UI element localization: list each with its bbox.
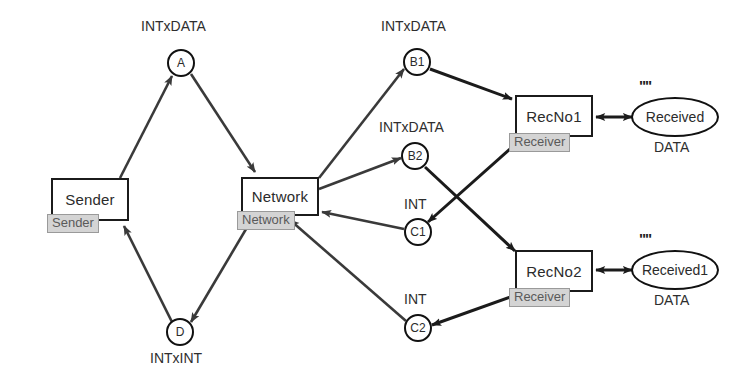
node-place-c2-label: C2 — [410, 321, 425, 335]
edge-C2-to-network — [290, 220, 406, 321]
node-place-d[interactable]: D — [166, 318, 194, 346]
edge-A-to-network — [191, 74, 255, 172]
tag-sender: Sender — [47, 214, 99, 233]
tag-recno1-label: Receiver — [514, 134, 565, 149]
edge-recno2-to-C2 — [432, 294, 519, 325]
node-recno1[interactable]: RecNo1 — [515, 95, 593, 137]
node-place-b2[interactable]: B2 — [401, 142, 429, 170]
node-received-label: Received — [646, 109, 704, 125]
edge-network-to-D — [191, 219, 252, 322]
annotation-b1-type: INTxDATA — [381, 18, 446, 34]
tag-recno1: Receiver — [509, 133, 570, 152]
annotation-a-type: INTxDATA — [141, 18, 206, 34]
node-network-label: Network — [252, 188, 308, 205]
annotation-c2-type: INT — [404, 291, 427, 307]
node-recno2-label: RecNo2 — [526, 263, 581, 280]
node-place-c1[interactable]: C1 — [404, 218, 432, 246]
node-place-a[interactable]: A — [167, 49, 195, 77]
node-received1[interactable]: Received1 — [631, 250, 719, 290]
node-place-c2[interactable]: C2 — [404, 314, 432, 342]
node-received1-label: Received1 — [642, 262, 708, 278]
quote-marker-received: "" — [639, 77, 651, 94]
annotation-received1-type: DATA — [654, 292, 689, 308]
node-place-b1[interactable]: B1 — [403, 48, 431, 76]
tag-recno2-label: Receiver — [514, 289, 565, 304]
node-place-b1-label: B1 — [410, 55, 425, 69]
node-recno1-label: RecNo1 — [526, 108, 581, 125]
node-received[interactable]: Received — [631, 97, 719, 137]
node-sender-label: Sender — [65, 191, 115, 208]
tag-network: Network — [237, 211, 295, 230]
tag-sender-label: Sender — [52, 215, 94, 230]
edge-C1-to-network — [322, 212, 404, 229]
quote-marker-received1: "" — [639, 230, 651, 247]
edge-D-to-sender — [124, 226, 172, 322]
node-recno2[interactable]: RecNo2 — [515, 250, 593, 292]
node-place-c1-label: C1 — [410, 225, 425, 239]
node-place-a-label: A — [177, 56, 185, 70]
node-place-d-label: D — [176, 325, 185, 339]
edge-sender-to-A — [120, 76, 172, 178]
annotation-b2-type: INTxDATA — [379, 119, 444, 135]
edge-B1-to-recno1 — [430, 69, 512, 99]
tag-network-label: Network — [242, 212, 290, 227]
node-place-b2-label: B2 — [408, 149, 423, 163]
tag-recno2: Receiver — [509, 288, 570, 307]
annotation-d-type: INTxINT — [150, 350, 202, 366]
petri-net-diagram: Sender Sender Network Network RecNo1 Rec… — [0, 0, 747, 386]
annotation-c1-type: INT — [404, 196, 427, 212]
annotation-received-type: DATA — [654, 139, 689, 155]
edge-B2-to-recno2 — [425, 167, 515, 251]
